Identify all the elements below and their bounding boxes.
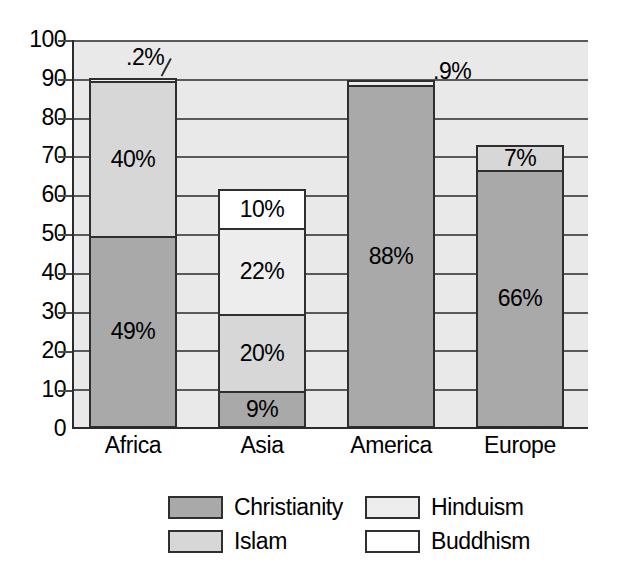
x-label-asia: Asia [187, 432, 337, 458]
y-tick-mark-40 [58, 273, 72, 275]
legend-item-buddhism[interactable]: Buddhism [365, 524, 530, 558]
bar-label-asia-islam: 20% [240, 342, 285, 365]
bar-africa[interactable]: 40% 49% [89, 78, 177, 428]
bar-segment-europe-christianity[interactable]: 66% [476, 170, 564, 428]
bar-label-europe-islam: 7% [504, 147, 536, 170]
bar-segment-america-christianity[interactable]: 88% [347, 85, 435, 429]
legend-swatch-hinduism-icon [365, 496, 420, 519]
legend-item-christianity[interactable]: Christianity [168, 490, 343, 524]
gridline-100 [73, 40, 588, 42]
bar-label-africa-islam: 40% [111, 148, 156, 171]
legend-swatch-buddhism-icon [365, 530, 420, 553]
legend-label-islam: Islam [234, 530, 287, 553]
legend-label-hinduism: Hinduism [431, 496, 524, 519]
plot-area: 40% 49% 10% 22% 20% 9% 88% [73, 40, 588, 428]
bar-segment-africa-islam[interactable]: 40% [89, 81, 177, 238]
legend-swatch-islam-icon [168, 530, 223, 553]
bar-label-asia-hinduism: 22% [240, 260, 285, 283]
y-tick-mark-10 [58, 390, 72, 392]
legend-item-islam[interactable]: Islam [168, 524, 343, 558]
bar-label-asia-buddhism: 10% [240, 198, 285, 221]
y-tick-mark-30 [58, 312, 72, 314]
bar-segment-asia-buddhism[interactable]: 10% [218, 189, 306, 230]
legend-swatch-christianity-icon [168, 496, 223, 519]
x-label-america: America [316, 432, 466, 458]
y-tick-mark-20 [58, 351, 72, 353]
legend-label-christianity: Christianity [234, 496, 343, 519]
bar-label-europe-christianity: 66% [498, 287, 543, 310]
bar-label-asia-christianity: 9% [246, 398, 278, 421]
y-tick-mark-100 [58, 40, 72, 42]
y-tick-mark-80 [58, 118, 72, 120]
callout-label-america: .9% [433, 60, 471, 83]
legend-item-hinduism[interactable]: Hinduism [365, 490, 530, 524]
y-tick-mark-60 [58, 195, 72, 197]
bar-segment-asia-islam[interactable]: 20% [218, 314, 306, 394]
y-axis: 100 90 80 70 60 50 40 30 20 10 0 [0, 0, 66, 587]
bar-america[interactable]: 88% [347, 80, 435, 429]
callout-label-africa: .2% [126, 46, 164, 69]
bar-asia[interactable]: 10% 22% 20% 9% [218, 189, 306, 428]
y-tick-mark-50 [58, 234, 72, 236]
bar-segment-africa-christianity[interactable]: 49% [89, 236, 177, 428]
bar-segment-asia-hinduism[interactable]: 22% [218, 228, 306, 315]
bar-label-america-christianity: 88% [369, 245, 414, 268]
bar-europe[interactable]: 7% 66% [476, 145, 564, 428]
bar-segment-europe-islam[interactable]: 7% [476, 145, 564, 172]
bar-label-africa-christianity: 49% [111, 320, 156, 343]
bar-segment-asia-christianity[interactable]: 9% [218, 391, 306, 428]
chart-legend: Christianity Hinduism Islam Buddhism [168, 490, 468, 558]
stacked-bar-chart: 100 90 80 70 60 50 40 30 20 10 0 [0, 0, 618, 587]
x-axis-line [73, 427, 588, 429]
y-tick-mark-70 [58, 156, 72, 158]
x-label-europe: Europe [445, 432, 595, 458]
y-axis-line [72, 40, 74, 429]
legend-label-buddhism: Buddhism [431, 530, 530, 553]
y-tick-mark-90 [58, 79, 72, 81]
x-label-africa: Africa [58, 432, 208, 458]
